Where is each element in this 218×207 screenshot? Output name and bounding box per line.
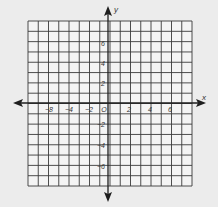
y-tick-label: 4 [101,60,105,67]
origin-label: O [101,106,106,113]
x-tick-label: −8 [45,106,53,113]
x-tick-label: −4 [65,106,73,113]
x-tick-label: 6 [168,106,172,113]
y-tick-label: −2 [97,121,105,128]
y-tick-label: −4 [97,142,105,149]
x-tick-label: 2 [127,106,131,113]
y-tick-label: −6 [97,163,105,170]
coordinate-plane [0,0,218,207]
y-tick-label: 2 [101,80,105,87]
y-axis-label: y [114,6,118,13]
x-tick-label: −2 [85,106,93,113]
x-axis-label: x [202,94,206,101]
x-tick-label: 4 [148,106,152,113]
y-tick-label: 6 [101,40,105,47]
